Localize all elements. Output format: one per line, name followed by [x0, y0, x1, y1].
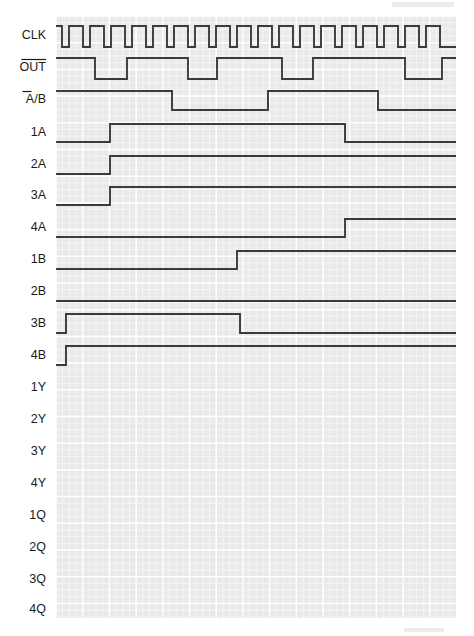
svg-text:1Q: 1Q	[29, 508, 46, 522]
svg-text:4A: 4A	[31, 220, 47, 234]
signal-label-2q: 2Q	[29, 540, 46, 554]
svg-text:1Y: 1Y	[31, 380, 47, 394]
timing-diagram-canvas: CLKOUTA/B1A2A3A4A1B2B3B4B1Y2Y3Y4Y1Q2Q3Q4…	[0, 0, 474, 636]
svg-text:2Y: 2Y	[31, 412, 47, 426]
svg-text:3B: 3B	[31, 316, 46, 330]
svg-text:1B: 1B	[31, 252, 46, 266]
svg-text:3Y: 3Y	[31, 444, 47, 458]
signal-label-clk: CLK	[22, 28, 47, 42]
svg-text:CLK: CLK	[22, 28, 47, 42]
signal-label-4q: 4Q	[29, 602, 46, 616]
svg-text:OUT: OUT	[20, 60, 47, 74]
signal-label-1a: 1A	[31, 125, 47, 139]
signal-label-3q: 3Q	[29, 572, 46, 586]
graph-paper-grid	[56, 16, 456, 618]
signal-label-2y: 2Y	[31, 412, 47, 426]
signal-label-3y: 3Y	[31, 444, 47, 458]
signal-label-2a: 2A	[31, 157, 47, 171]
signal-label-2b: 2B	[31, 284, 46, 298]
svg-text:1A: 1A	[31, 125, 47, 139]
signal-label-4y: 4Y	[31, 476, 47, 490]
signal-label-4a: 4A	[31, 220, 47, 234]
signal-label-1y: 1Y	[31, 380, 47, 394]
svg-text:3Q: 3Q	[29, 572, 46, 586]
signal-label-out: OUT	[20, 60, 47, 75]
svg-text:4Q: 4Q	[29, 602, 46, 616]
signal-label-a-b: A/B	[23, 92, 47, 107]
signal-label-1b: 1B	[31, 252, 46, 266]
signal-label-3b: 3B	[31, 316, 46, 330]
svg-text:4B: 4B	[31, 348, 46, 362]
svg-text:2Q: 2Q	[29, 540, 46, 554]
svg-text:2B: 2B	[31, 284, 46, 298]
svg-text:4Y: 4Y	[31, 476, 47, 490]
signal-label-1q: 1Q	[29, 508, 46, 522]
svg-text:2A: 2A	[31, 157, 47, 171]
signal-label-3a: 3A	[31, 188, 47, 202]
svg-text:3A: 3A	[31, 188, 47, 202]
svg-text:A/B: A/B	[26, 92, 46, 106]
signal-label-4b: 4B	[31, 348, 46, 362]
